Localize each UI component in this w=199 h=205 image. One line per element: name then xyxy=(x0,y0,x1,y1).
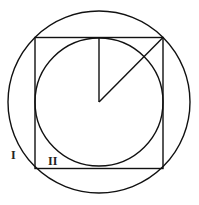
label-region-i: I xyxy=(11,148,16,162)
geometry-diagram: I II xyxy=(0,0,199,205)
label-region-ii: II xyxy=(48,154,58,168)
